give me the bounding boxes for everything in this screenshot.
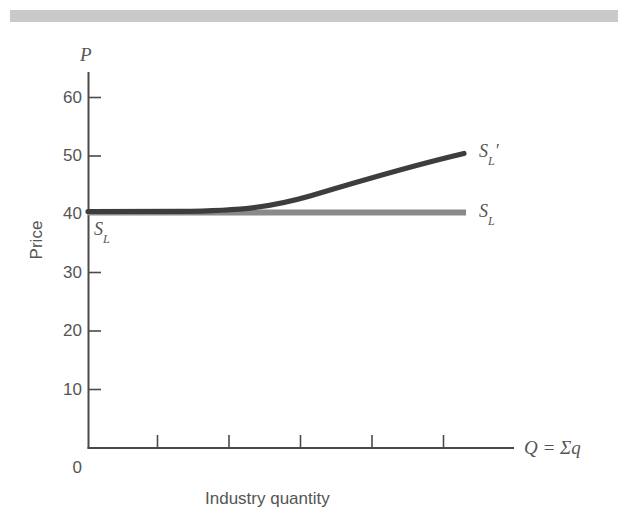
- y-tick-label-60: 60: [42, 88, 82, 108]
- curve-label-sl-right: SL: [479, 201, 495, 226]
- curve-label-sl-prime-right: SL′: [479, 141, 499, 166]
- curve-label-sl-left-subscript: L: [103, 232, 110, 246]
- origin-label-zero: 0: [42, 458, 82, 478]
- x-axis-variable-label: Q = Σq: [524, 437, 581, 459]
- y-tick-label-50: 50: [42, 146, 82, 166]
- supply-curve-sl-prime-rising: [88, 154, 464, 212]
- y-tick-label-30: 30: [42, 263, 82, 283]
- curve-label-sl-prime-subscript: L: [488, 154, 495, 168]
- curve-label-sl-left: SL: [94, 219, 110, 244]
- curve-label-sl-prime-mark: ′: [495, 141, 499, 161]
- curve-label-sl-right-subscript: L: [488, 214, 495, 228]
- y-axis-variable-label: P: [80, 44, 92, 66]
- x-axis-ticks: [158, 435, 444, 448]
- curve-label-sl-left-base: S: [94, 219, 103, 239]
- y-tick-label-10: 10: [42, 380, 82, 400]
- y-tick-label-20: 20: [42, 321, 82, 341]
- x-axis-title: Industry quantity: [205, 489, 330, 509]
- y-tick-label-40: 40: [42, 204, 82, 224]
- y-axis-title: Price: [27, 195, 47, 285]
- curve-label-sl-prime-base: S: [479, 141, 488, 161]
- figure-root: 60 50 40 30 20 10 0 P Price Q = Σq Indus…: [0, 0, 630, 525]
- curve-label-sl-right-base: S: [479, 201, 488, 221]
